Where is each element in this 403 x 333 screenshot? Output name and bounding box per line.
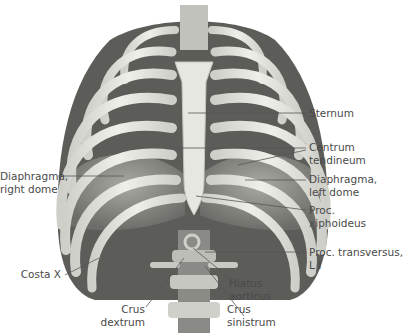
label-proc-xiphoideus: Proc. xiphoideus <box>309 204 366 229</box>
label-proc-transversus: Proc. transversus, L I <box>309 246 403 271</box>
label-crus-sinistrum: Crus sinistrum <box>227 303 276 328</box>
label-line: Costa X <box>8 268 61 281</box>
label-line: dextrum <box>100 316 145 329</box>
label-line: tendineum <box>309 154 366 167</box>
label-costa-x: Costa X <box>8 268 61 281</box>
label-line: Crus <box>100 303 145 316</box>
label-line: Centrum <box>309 141 366 154</box>
label-line: aorticus <box>229 290 271 303</box>
label-line: sinistrum <box>227 316 276 329</box>
label-diaphragma-right-dome: Diaphragma, right dome <box>0 170 57 195</box>
label-centrum-tendineum: Centrum tendineum <box>309 141 366 166</box>
label-hiatus-aorticus: Hiatus aorticus <box>229 277 271 302</box>
label-line: Sternum <box>309 107 354 120</box>
label-line: L I <box>309 259 403 272</box>
label-line: xiphoideus <box>309 217 366 230</box>
label-line: Diaphragma, <box>309 173 377 186</box>
label-diaphragma-left-dome: Diaphragma, left dome <box>309 173 377 198</box>
label-line: Crus <box>227 303 276 316</box>
label-sternum: Sternum <box>309 107 354 120</box>
label-line: Proc. transversus, <box>309 246 403 259</box>
label-crus-dextrum: Crus dextrum <box>100 303 145 328</box>
thoracic-spine <box>180 5 208 50</box>
label-line: Proc. <box>309 204 366 217</box>
label-line: left dome <box>309 186 377 199</box>
label-line: right dome <box>0 183 57 196</box>
label-line: Diaphragma, <box>0 170 57 183</box>
label-line: Hiatus <box>229 277 271 290</box>
